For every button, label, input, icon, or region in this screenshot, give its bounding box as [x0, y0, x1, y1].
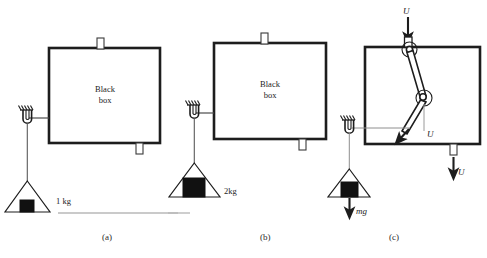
hatched-support	[19, 106, 34, 111]
panel-caption-c: (c)	[389, 232, 399, 242]
hook-icon	[23, 110, 32, 123]
box-label-a: Black box	[84, 84, 126, 105]
mass-label-b: 2kg	[224, 186, 237, 196]
force-label-mg: mg	[356, 206, 367, 216]
panel-c-graphics	[325, 0, 487, 258]
weight-block	[20, 200, 34, 212]
box-label-b: Black box	[248, 79, 292, 100]
figure-root: Black box 1 kg (a)	[0, 0, 487, 258]
box-top-tab	[261, 33, 268, 44]
weight-block	[341, 182, 358, 197]
panel-b: Black box 2kg (b)	[168, 0, 328, 258]
box-label-line1: Black	[95, 84, 115, 94]
panel-caption-a: (a)	[102, 232, 112, 242]
force-label-bottom: U	[458, 167, 465, 177]
hook-icon	[345, 120, 354, 133]
pin-joint-mid	[420, 94, 426, 100]
hatched-support	[341, 116, 356, 121]
mass-label-a: 1 kg	[56, 196, 71, 206]
box-bottom-tab	[450, 144, 457, 155]
box-label-line2: box	[264, 90, 277, 100]
box-label-line2: box	[99, 95, 112, 105]
box-label-line1: Black	[260, 79, 280, 89]
box-top-tab	[97, 38, 104, 49]
panel-c: U U U mg (c)	[325, 0, 487, 258]
force-label-mid: U	[427, 129, 434, 139]
panel-a-graphics	[0, 0, 180, 258]
panel-a: Black box 1 kg (a)	[0, 0, 180, 258]
panel-caption-b: (b)	[260, 232, 271, 242]
box-bottom-tab	[299, 139, 306, 150]
hook-icon	[190, 105, 199, 118]
box-bottom-tab	[136, 143, 143, 154]
weight-block	[183, 178, 205, 197]
hatched-support	[186, 101, 201, 106]
force-label-top: U	[403, 6, 410, 16]
panel-b-graphics	[168, 0, 328, 258]
